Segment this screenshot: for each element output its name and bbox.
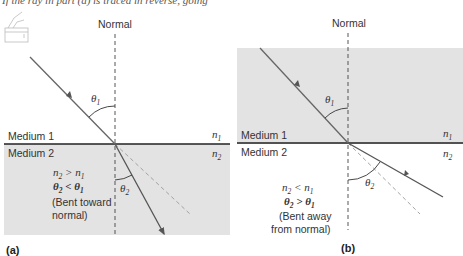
note-line-2: from normal) bbox=[271, 223, 331, 235]
theta2-label: θ2 bbox=[365, 176, 374, 191]
note-line-2: normal) bbox=[52, 209, 88, 221]
theta1-arc bbox=[89, 106, 115, 117]
medium-2-label: Medium 2 bbox=[8, 147, 54, 159]
relation-n-line: n2 < n1 bbox=[282, 181, 313, 196]
note-line-1: (Bent away bbox=[279, 210, 332, 222]
n1-label: n1 bbox=[212, 128, 221, 143]
refracted-ray bbox=[348, 143, 443, 197]
theta1-label: θ1 bbox=[91, 92, 100, 107]
normal-label: Normal bbox=[98, 18, 132, 30]
relation-theta-line: θ2 > θ1 bbox=[284, 195, 315, 210]
panel-b-label: (b) bbox=[341, 242, 355, 254]
medium-2-label: Medium 2 bbox=[241, 146, 287, 158]
normal-label: Normal bbox=[332, 17, 366, 29]
n2-label: n2 bbox=[443, 147, 453, 162]
note-line-1: (Bent toward bbox=[52, 196, 112, 208]
medium-1-label: Medium 1 bbox=[8, 130, 54, 142]
refracted-ray-arrow-icon bbox=[404, 170, 409, 176]
panel-a: Normal θ1 θ2 Medium 1 Medium 2 n1 n2 n2 … bbox=[4, 18, 230, 256]
theta2-arc bbox=[348, 162, 380, 180]
panel-a-label: (a) bbox=[6, 244, 20, 256]
medium-1-label: Medium 1 bbox=[241, 129, 287, 141]
header-text-fragment: If the ray in part (a) is traced in reve… bbox=[1, 0, 208, 7]
book-icon bbox=[5, 12, 28, 42]
panel-b: Normal θ1 θ2 Medium 1 Medium 2 n1 n2 n2 … bbox=[237, 17, 463, 254]
refraction-figure: If the ray in part (a) is traced in reve… bbox=[0, 0, 463, 256]
